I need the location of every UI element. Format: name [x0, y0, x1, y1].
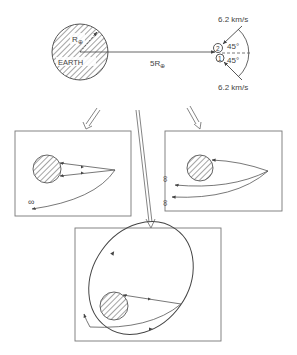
angle-bottom: 45° [227, 56, 239, 65]
distance-label: 5R [150, 59, 160, 68]
arrow-to-right-panel [187, 106, 201, 129]
left-panel: ∞ [15, 131, 131, 216]
infinity-label-right-top: ∞ [160, 176, 170, 182]
radius-sub: ⊕ [78, 39, 83, 45]
angle-top: 45° [227, 42, 239, 51]
earth-circle-right [187, 155, 213, 181]
velocity-bottom-label: 6.2 km/s [218, 83, 248, 92]
infinity-label-right-bottom: ∞ [160, 200, 170, 206]
earth-circle-left [33, 155, 61, 183]
arrow-to-left-panel [83, 108, 100, 129]
infinity-label-left: ∞ [28, 197, 34, 207]
right-panel: ∞ ∞ [160, 131, 282, 211]
distance-sub: ⊕ [160, 63, 165, 69]
svg-text:5R⊕: 5R⊕ [150, 59, 165, 69]
orbit-diagram: R⊕ EARTH 5R⊕ 2 1 45° 45° 6.2 km/s 6.2 km… [0, 0, 297, 355]
top-diagram: R⊕ EARTH 5R⊕ 2 1 45° 45° 6.2 km/s 6.2 km… [52, 15, 252, 92]
particle-1-label: 1 [218, 55, 222, 62]
arrow-to-bottom-panel [136, 110, 155, 228]
particle-2-label: 2 [216, 45, 220, 52]
velocity-top-label: 6.2 km/s [218, 15, 248, 24]
bottom-panel [67, 201, 221, 354]
earth-label: EARTH [58, 58, 83, 67]
earth-circle-bottom [100, 292, 128, 320]
